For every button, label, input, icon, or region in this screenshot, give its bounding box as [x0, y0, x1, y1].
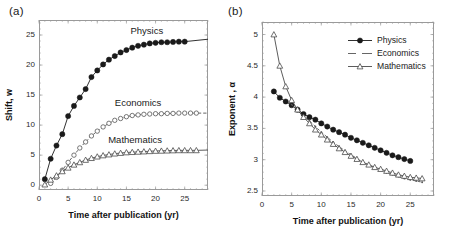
legend-label: Economics [377, 48, 419, 59]
panel-b-y-axis-title: Exponent , α [227, 82, 237, 136]
y-tick-label: 25 [13, 30, 35, 39]
y-tick-label: 10 [13, 120, 35, 129]
legend-label: Mathematics [377, 61, 426, 72]
legend-item-economics[interactable]: Economics [347, 47, 426, 60]
series-annotation-physics: Physics [130, 25, 163, 36]
y-tick-label: 5 [236, 30, 258, 39]
y-tick-label: 2.5 [236, 186, 258, 195]
x-tick-label: 25 [171, 194, 199, 203]
x-tick-label: 5 [278, 200, 306, 209]
panel-a: (a) 05101520250510152025 PhysicsEconomic… [0, 0, 225, 245]
x-tick-label: 10 [307, 200, 335, 209]
x-tick-label: 20 [142, 194, 170, 203]
figure-root: (a) 05101520250510152025 PhysicsEconomic… [0, 0, 449, 245]
series-annotation-mathematics: Mathematics [108, 134, 162, 145]
y-tick-label: 5 [13, 150, 35, 159]
y-tick-label: 3.5 [236, 123, 258, 132]
x-tick-label: 15 [337, 200, 365, 209]
legend-item-physics[interactable]: Physics [347, 34, 426, 47]
y-tick-label: 0 [13, 180, 35, 189]
y-tick-label: 20 [13, 60, 35, 69]
legend-key-economics-icon [347, 48, 373, 59]
x-tick-label: 15 [112, 194, 140, 203]
x-tick-label: 5 [54, 194, 82, 203]
legend-label: Physics [377, 35, 407, 46]
panel-a-x-axis-title: Time after publication (yr) [68, 210, 178, 220]
y-tick-label: 4 [236, 92, 258, 101]
panel-b-legend: PhysicsEconomicsMathematics [347, 34, 426, 73]
series-annotation-economics: Economics [115, 97, 161, 108]
y-tick-label: 15 [13, 90, 35, 99]
panel-b-x-axis-title: Time after publication (yr) [293, 216, 403, 226]
y-tick-label: 3 [236, 155, 258, 164]
x-tick-label: 20 [367, 200, 395, 209]
x-tick-label: 0 [248, 200, 276, 209]
legend-item-mathematics[interactable]: Mathematics [347, 60, 426, 73]
y-tick-label: 4.5 [236, 61, 258, 70]
panel-b: (b) 05101520252.533.544.55 PhysicsEconom… [224, 0, 449, 245]
x-tick-label: 0 [25, 194, 53, 203]
x-tick-label: 25 [396, 200, 424, 209]
legend-key-mathematics-icon [347, 61, 373, 72]
x-tick-label: 10 [83, 194, 111, 203]
panel-a-y-axis-title: Shift, w [4, 89, 14, 121]
legend-key-physics-icon [347, 35, 373, 46]
